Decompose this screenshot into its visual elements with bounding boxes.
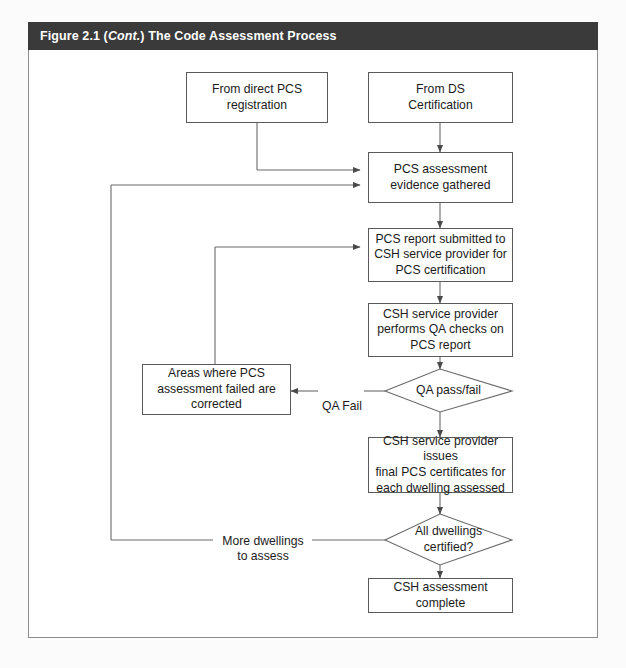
node-pcs-report-submitted[interactable]: PCS report submitted to CSH service prov… [368,228,513,282]
figure-caption-bar: Figure 2.1 (Cont.) The Code Assessment P… [28,22,598,50]
node-pcs-report-submitted-label: PCS report submitted to CSH service prov… [374,232,507,279]
node-assessment-complete-label: CSH assessment complete [369,580,512,611]
node-pcs-assessment-evidence-label: PCS assessment evidence gathered [390,162,490,193]
node-assessment-complete[interactable]: CSH assessment complete [368,578,513,613]
node-issue-certificates[interactable]: CSH service provider issues final PCS ce… [368,437,513,493]
figure-caption-text: Figure 2.1 (Cont.) The Code Assessment P… [40,22,337,50]
caption-italic: Cont. [108,29,140,43]
edge-label-qa-fail: QA Fail [320,383,364,414]
node-all-dwellings-certified-label: All dwellings certified? [415,524,482,555]
node-pcs-assessment-evidence[interactable]: PCS assessment evidence gathered [368,152,513,203]
caption-suffix: ) The Code Assessment Process [140,29,336,43]
node-issue-certificates-label: CSH service provider issues final PCS ce… [369,434,512,496]
edge-label-more-dwellings: More dwellings to assess [214,518,312,565]
node-areas-corrected-label: Areas where PCS assessment failed are co… [157,366,276,413]
node-from-ds-certification-label: From DS Certification [408,82,472,113]
node-from-ds-certification[interactable]: From DS Certification [368,72,513,123]
node-qa-checks[interactable]: CSH service provider performs QA checks … [368,303,513,357]
node-areas-corrected[interactable]: Areas where PCS assessment failed are co… [142,364,291,415]
node-from-direct-pcs[interactable]: From direct PCS registration [186,72,328,123]
caption-prefix: Figure 2.1 ( [40,29,108,43]
node-qa-pass-fail[interactable]: QA pass/fail [385,369,512,412]
page-background: Figure 2.1 (Cont.) The Code Assessment P… [0,0,626,668]
node-from-direct-pcs-label: From direct PCS registration [212,82,302,113]
edge-label-more-dwellings-text: More dwellings to assess [222,534,303,564]
node-all-dwellings-certified[interactable]: All dwellings certified? [385,514,512,565]
node-qa-pass-fail-label: QA pass/fail [416,383,481,399]
node-qa-checks-label: CSH service provider performs QA checks … [377,307,504,354]
edge-label-qa-fail-text: QA Fail [322,399,362,413]
